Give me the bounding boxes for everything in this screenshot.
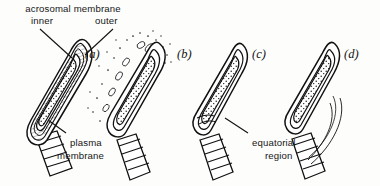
inner-leader-line xyxy=(40,29,72,58)
plasma-membrane-label-line1: plasma xyxy=(70,137,102,149)
panel-letter-c: (c) xyxy=(252,47,266,62)
panel-c-sperm xyxy=(193,43,248,180)
panel-d-sperm xyxy=(285,42,342,179)
panel-b-neck xyxy=(117,134,150,180)
plasma-membrane-label-line2: membrane xyxy=(57,150,104,162)
outer-membrane-label: outer xyxy=(95,15,118,27)
acrosomal-membrane-label: acrosomal membrane xyxy=(17,3,129,15)
equatorial-region-leader-line xyxy=(225,118,248,133)
panel-letter-b: (b) xyxy=(177,47,192,62)
equatorial-region-label-line1: equatorial xyxy=(252,137,296,149)
panel-c-neck xyxy=(200,134,233,180)
panel-letter-d: (d) xyxy=(344,47,359,62)
inner-membrane-label: inner xyxy=(31,15,53,27)
panel-letter-a: (a) xyxy=(85,47,100,62)
panel-d-neck xyxy=(292,133,325,179)
equatorial-region-label-line2: region xyxy=(265,150,293,162)
